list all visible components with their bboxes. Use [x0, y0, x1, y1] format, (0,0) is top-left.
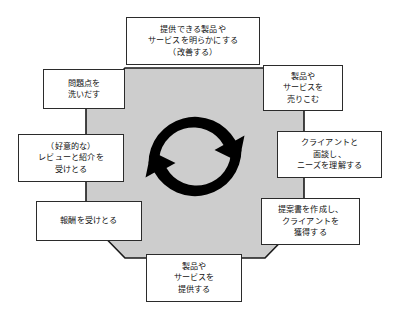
node-box-meet-clients[interactable]: クライアントと 面談し、 ニーズを理解する [277, 131, 382, 178]
node-label: クライアントと 面談し、 ニーズを理解する [295, 137, 365, 171]
node-label: 報酬を受けとる [58, 215, 119, 226]
diagram-canvas: 提供できる製品や サービスを明らかにする （改善する） 製品や サービスを 売り… [0, 0, 396, 321]
node-box-create-proposal[interactable]: 提案書を作成し、 クライアントを 獲得する [261, 198, 360, 245]
node-box-identify-problems[interactable]: 問題点を 洗いだす [43, 69, 125, 109]
node-label: 提供できる製品や サービスを明らかにする （改善する） [146, 24, 240, 58]
node-box-promote-products[interactable]: 製品や サービスを 売りこむ [263, 65, 343, 111]
node-label: （好意的な） レビューと紹介を 受けとる [36, 141, 106, 175]
node-box-deliver-products[interactable]: 製品や サービスを 提供する [146, 254, 242, 302]
node-box-receive-payment[interactable]: 報酬を受けとる [36, 201, 142, 241]
node-label: 問題点を 洗いだす [66, 78, 103, 101]
node-label: 製品や サービスを 提供する [172, 261, 217, 295]
node-label: 製品や サービスを 売りこむ [281, 71, 326, 105]
node-label: 提案書を作成し、 クライアントを 獲得する [276, 204, 346, 238]
node-box-identify-products[interactable]: 提供できる製品や サービスを明らかにする （改善する） [126, 17, 260, 65]
node-box-receive-reviews[interactable]: （好意的な） レビューと紹介を 受けとる [18, 134, 124, 182]
